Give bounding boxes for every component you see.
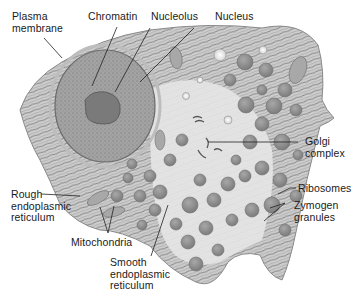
label-nucleolus: Nucleolus <box>151 11 198 23</box>
label-chromatin: Chromatin <box>88 11 137 23</box>
label-smooth-er: Smooth endoplasmic reticulum <box>110 257 170 292</box>
label-mitochondria: Mitochondria <box>71 237 132 249</box>
label-ribosomes: Ribosomes <box>298 183 351 195</box>
label-golgi-complex: Golgi complex <box>305 136 345 159</box>
label-plasma-membrane: Plasma membrane <box>12 11 63 34</box>
label-nucleus: Nucleus <box>215 11 254 23</box>
label-zymogen-granules: Zymogen granules <box>294 200 338 223</box>
cell-illustration <box>0 0 352 301</box>
cell-diagram: Plasma membrane Chromatin Nucleolus Nucl… <box>0 0 352 301</box>
nucleolus-shape <box>85 92 120 124</box>
label-rough-er: Rough endoplasmic reticulum <box>11 189 71 224</box>
